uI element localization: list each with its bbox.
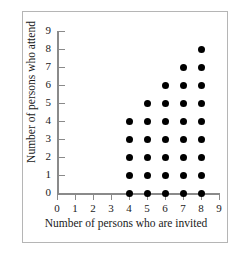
- data-point: [198, 46, 205, 53]
- x-tick-label-0: 0: [47, 202, 67, 215]
- data-point: [180, 154, 187, 161]
- data-point: [144, 190, 151, 197]
- data-point: [126, 136, 133, 143]
- data-point: [144, 154, 151, 161]
- data-point: [162, 136, 169, 143]
- x-tick-label-4: 4: [119, 202, 139, 215]
- y-tick-4: [59, 121, 65, 122]
- x-tick-label-9: 9: [209, 202, 229, 215]
- data-point: [162, 118, 169, 125]
- data-point: [126, 118, 133, 125]
- x-tick-label-7: 7: [173, 202, 193, 215]
- y-tick-5: [59, 103, 65, 104]
- plot-area: 0123456789 0123456789: [57, 31, 219, 193]
- x-tick-2: [93, 194, 94, 200]
- data-point: [126, 190, 133, 197]
- x-tick-9: [219, 194, 220, 200]
- data-point: [198, 100, 205, 107]
- data-point: [198, 136, 205, 143]
- data-point: [162, 154, 169, 161]
- data-point: [162, 82, 169, 89]
- data-point: [144, 172, 151, 179]
- data-point: [180, 136, 187, 143]
- data-point: [162, 100, 169, 107]
- x-tick-label-8: 8: [191, 202, 211, 215]
- data-point: [180, 100, 187, 107]
- x-tick-label-1: 1: [65, 202, 85, 215]
- y-tick-6: [59, 85, 65, 86]
- data-point: [180, 190, 187, 197]
- data-point: [180, 172, 187, 179]
- y-axis-line: [57, 31, 59, 194]
- x-tick-3: [111, 194, 112, 200]
- data-point: [198, 118, 205, 125]
- data-point: [198, 154, 205, 161]
- data-point: [180, 82, 187, 89]
- x-tick-0: [57, 194, 58, 200]
- y-tick-2: [59, 157, 65, 158]
- data-point: [198, 190, 205, 197]
- data-point: [162, 190, 169, 197]
- x-axis-line: [57, 193, 220, 195]
- data-point: [198, 172, 205, 179]
- y-tick-1: [59, 175, 65, 176]
- data-point: [162, 172, 169, 179]
- data-point: [198, 64, 205, 71]
- y-axis-title: Number of persons who attend: [24, 7, 38, 177]
- y-tick-8: [59, 49, 65, 50]
- x-tick-label-2: 2: [83, 202, 103, 215]
- data-point: [180, 118, 187, 125]
- x-tick-1: [75, 194, 76, 200]
- y-tick-label-0: 0: [35, 187, 51, 198]
- data-point: [126, 172, 133, 179]
- data-point: [144, 100, 151, 107]
- data-point: [198, 82, 205, 89]
- x-tick-label-3: 3: [101, 202, 121, 215]
- x-tick-label-5: 5: [137, 202, 157, 215]
- y-tick-9: [59, 31, 65, 32]
- data-point: [144, 118, 151, 125]
- scatter-plot-figure: 0123456789 0123456789 Number of persons …: [0, 0, 250, 256]
- x-tick-label-6: 6: [155, 202, 175, 215]
- data-point: [180, 64, 187, 71]
- x-axis-title: Number of persons who are invited: [30, 216, 222, 230]
- data-point: [126, 154, 133, 161]
- data-point: [144, 136, 151, 143]
- y-tick-3: [59, 139, 65, 140]
- y-tick-7: [59, 67, 65, 68]
